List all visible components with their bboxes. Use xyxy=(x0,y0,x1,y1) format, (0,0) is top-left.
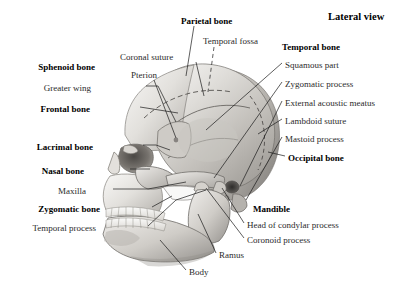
label-temporal-fossa: Temporal fossa xyxy=(203,37,258,46)
label-lambdoid-suture: Lambdoid suture xyxy=(285,117,346,126)
label-parietal-bone: Parietal bone xyxy=(181,17,232,26)
label-external-acoustic-meatus: External acoustic meatus xyxy=(285,99,375,108)
temporal-fossa-shape xyxy=(178,118,238,162)
label-zygomatic-bone: Zygomatic bone xyxy=(38,205,100,214)
label-frontal-bone: Frontal bone xyxy=(40,105,90,114)
label-temporal-bone: Temporal bone xyxy=(282,43,340,52)
label-zygomatic-process: Zygomatic process xyxy=(285,80,353,89)
label-lacrimal-bone: Lacrimal bone xyxy=(37,143,93,152)
label-mastoid-process: Mastoid process xyxy=(285,135,344,144)
label-temporal-process: Temporal process xyxy=(32,224,96,233)
view-title: Lateral view xyxy=(328,12,384,23)
label-coronoid-process: Coronoid process xyxy=(247,236,310,245)
label-body: Body xyxy=(189,268,209,277)
nasal-bone-shape xyxy=(108,152,120,174)
label-pterion: Pterion xyxy=(131,71,157,80)
label-sphenoid-bone: Sphenoid bone xyxy=(38,63,95,72)
label-maxilla: Maxilla xyxy=(58,187,86,196)
label-ramus: Ramus xyxy=(219,251,244,260)
label-occipital-bone: Occipital bone xyxy=(288,154,344,163)
figure-panel: Lateral view Sphenoid bone Greater wing … xyxy=(0,0,406,290)
label-head-of-condylar-process: Head of condylar process xyxy=(247,221,339,230)
label-greater-wing: Greater wing xyxy=(44,84,91,93)
label-coronal-suture: Coronal suture xyxy=(120,53,173,62)
label-mandible: Mandible xyxy=(253,205,290,214)
external-acoustic-meatus-shape xyxy=(225,181,239,193)
pterion-marker xyxy=(174,138,179,143)
label-nasal-bone: Nasal bone xyxy=(42,167,84,176)
label-squamous-part: Squamous part xyxy=(285,61,339,70)
